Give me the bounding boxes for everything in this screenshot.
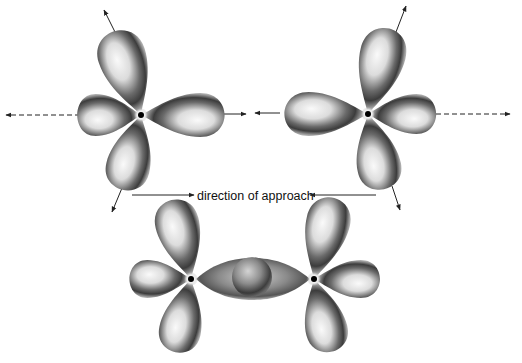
orbital-lobe-right bbox=[141, 93, 225, 137]
nucleus bbox=[188, 276, 194, 282]
nucleus bbox=[138, 112, 144, 118]
caption-text: direction of approach bbox=[197, 189, 314, 203]
bottom-right-atom bbox=[293, 193, 380, 357]
overlap-sphere bbox=[232, 257, 272, 297]
orbital-lobe-left bbox=[284, 92, 368, 136]
nucleus bbox=[365, 111, 371, 117]
top-left-down-arrow bbox=[112, 188, 122, 212]
top-right-up-arrow bbox=[396, 6, 406, 32]
top-left-atom bbox=[6, 10, 246, 212]
bottom-left-atom bbox=[129, 195, 212, 357]
top-right-down-arrow bbox=[392, 186, 400, 210]
bonded-molecule bbox=[129, 193, 380, 357]
top-right-atom bbox=[255, 6, 510, 210]
nucleus bbox=[311, 276, 317, 282]
orbital-diagram: direction of approach bbox=[0, 0, 522, 363]
